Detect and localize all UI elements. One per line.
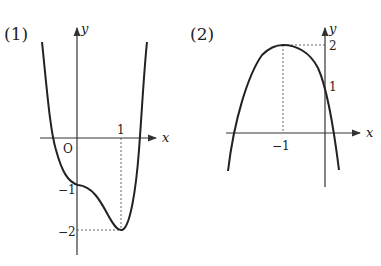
diagram: (1) x y O 1 −1 −2 (2) x y −1 2 1 bbox=[0, 0, 381, 266]
curve-1 bbox=[42, 42, 147, 230]
y-tick-neg2: −2 bbox=[58, 225, 76, 239]
x-tick-neg1: −1 bbox=[272, 139, 290, 153]
y-tick-1: 1 bbox=[329, 80, 337, 94]
x-tick-1: 1 bbox=[117, 123, 125, 137]
graph-1: (1) x y O 1 −1 −2 bbox=[4, 21, 170, 255]
graph-2-label: (2) bbox=[190, 24, 214, 44]
y-axis-label: y bbox=[80, 21, 89, 36]
y-tick-neg1: −1 bbox=[58, 183, 76, 197]
origin-label: O bbox=[63, 142, 73, 156]
x-axis-label: x bbox=[366, 125, 374, 140]
x-axis-label: x bbox=[162, 130, 170, 145]
graph-2: (2) x y −1 2 1 bbox=[190, 21, 374, 187]
y-axis-label: y bbox=[328, 21, 337, 36]
y-tick-2: 2 bbox=[329, 39, 337, 53]
graph-1-label: (1) bbox=[4, 24, 28, 44]
